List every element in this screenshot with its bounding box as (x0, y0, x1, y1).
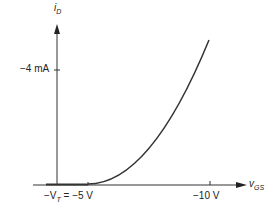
x-tick-label-vt: −VT = −5 V (44, 190, 93, 203)
y-axis-arrow-icon (54, 24, 60, 34)
chart-canvas (0, 0, 280, 211)
x-tick-label-10v: −10 V (193, 190, 219, 201)
x-axis-arrow-icon (236, 182, 247, 188)
transfer-curve (88, 40, 209, 184)
y-tick-label: −4 mA (20, 63, 49, 74)
y-axis-label: iD (54, 2, 61, 15)
x-axis-label: vGS (249, 178, 264, 191)
